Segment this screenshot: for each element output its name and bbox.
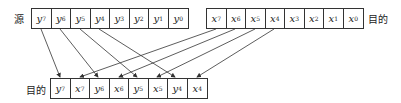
arrows (0, 0, 401, 103)
